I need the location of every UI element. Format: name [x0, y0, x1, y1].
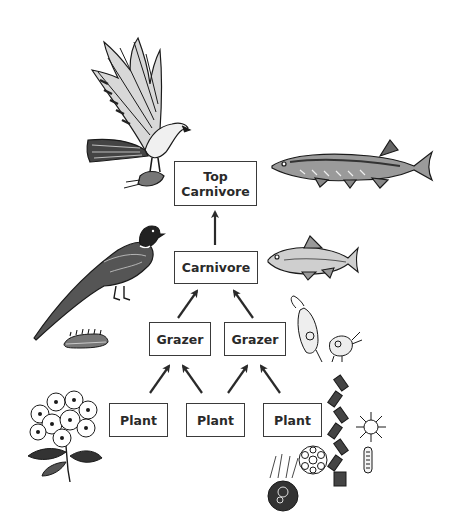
caterpillar-illustration — [64, 329, 108, 348]
node-label: Top Carnivore — [181, 169, 249, 199]
node-plant-left: Plant — [109, 403, 168, 437]
node-label: Plant — [120, 413, 157, 428]
node-grazer-right: Grazer — [224, 322, 286, 356]
node-label: Plant — [197, 413, 234, 428]
phytoplankton-illustration — [268, 375, 386, 511]
food-chain-diagram: Top Carnivore Carnivore Grazer Grazer Pl… — [0, 0, 454, 525]
node-top-carnivore: Top Carnivore — [174, 161, 257, 206]
node-grazer-left: Grazer — [149, 322, 211, 356]
node-label: Carnivore — [182, 260, 250, 275]
node-plant-middle: Plant — [186, 403, 245, 437]
node-label: Grazer — [232, 332, 279, 347]
flowering-plant-illustration — [28, 391, 102, 482]
node-label: Grazer — [157, 332, 204, 347]
minnow-fish-illustration — [268, 236, 358, 280]
node-carnivore: Carnivore — [174, 251, 258, 284]
node-label: Plant — [274, 413, 311, 428]
pheasant-illustration — [34, 226, 164, 340]
pike-fish-illustration — [272, 140, 432, 188]
zooplankton-illustration — [291, 296, 362, 362]
node-plant-right: Plant — [263, 403, 322, 437]
